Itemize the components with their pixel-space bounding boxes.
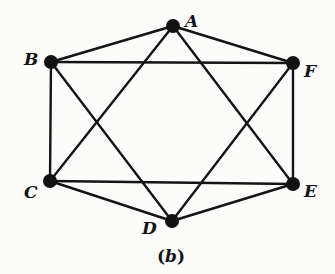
vertex-label-group: ABFCED xyxy=(23,11,318,238)
diagram-canvas: ABFCED (b) xyxy=(0,0,335,274)
figure-caption: (b) xyxy=(157,246,185,266)
vertex-e xyxy=(286,177,300,191)
vertex-group xyxy=(43,19,300,228)
vertex-a xyxy=(166,19,180,33)
vertex-label-a: A xyxy=(183,11,198,31)
edge-a-e xyxy=(173,26,293,184)
caption-open-paren: ( xyxy=(157,246,165,266)
vertex-b xyxy=(44,55,58,69)
caption-letter: b xyxy=(165,246,177,266)
edge-group xyxy=(50,26,293,221)
vertex-f xyxy=(286,56,300,70)
edge-c-d xyxy=(50,181,172,221)
vertex-label-e: E xyxy=(303,181,318,201)
vertex-c xyxy=(43,174,57,188)
edge-b-f xyxy=(51,62,293,63)
vertex-label-f: F xyxy=(303,61,318,81)
vertex-d xyxy=(165,214,179,228)
edge-b-d xyxy=(51,62,172,221)
edge-a-b xyxy=(51,26,173,62)
edge-a-f xyxy=(173,26,293,63)
edge-e-d xyxy=(172,184,293,221)
graph-figure: ABFCED (b) xyxy=(0,0,335,274)
vertex-label-b: B xyxy=(23,49,38,69)
vertex-label-c: C xyxy=(24,182,38,202)
edge-b-c xyxy=(50,62,51,181)
edge-f-d xyxy=(172,63,293,221)
edge-c-e xyxy=(50,181,293,184)
caption-close-paren: ) xyxy=(177,246,185,266)
vertex-label-d: D xyxy=(141,218,157,238)
edge-a-c xyxy=(50,26,173,181)
